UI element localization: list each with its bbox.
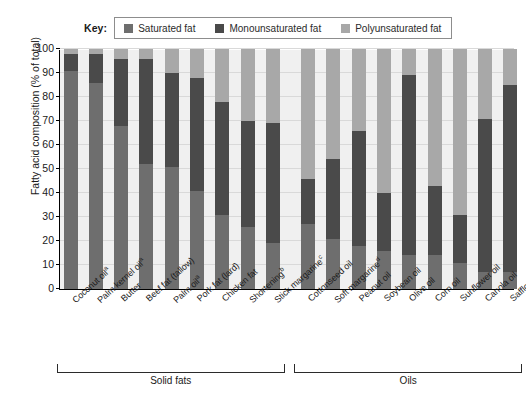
bar: [114, 49, 128, 289]
legend-label-monounsaturated: Monounsaturated fat: [229, 23, 321, 34]
bar-segment-monounsaturated-fat: [215, 102, 229, 215]
bar-segment-monounsaturated-fat: [301, 179, 315, 225]
bar-segment-monounsaturated-fat: [165, 73, 179, 167]
legend-swatch-monounsaturated: [215, 24, 224, 33]
bar: [326, 49, 340, 289]
y-tick-mark: [56, 120, 60, 121]
bar: [377, 49, 391, 289]
bar-segment-polyunsaturated-fat: [326, 49, 340, 159]
y-tick-label: 100: [24, 48, 54, 49]
bar-segment-monounsaturated-fat: [478, 119, 492, 273]
bar-segment-monounsaturated-fat: [352, 131, 366, 246]
bar-segment-polyunsaturated-fat: [301, 49, 315, 179]
y-tick-mark: [56, 192, 60, 193]
legend-entry-monounsaturated: Monounsaturated fat: [215, 23, 321, 34]
bar-segment-saturated-fat: [89, 83, 103, 289]
bar-segment-monounsaturated-fat: [139, 59, 153, 165]
bar: [190, 49, 204, 289]
bar: [266, 49, 280, 289]
bar: [241, 49, 255, 289]
legend-key-label: Key:: [84, 22, 107, 34]
y-tick-mark: [56, 240, 60, 241]
bar-segment-monounsaturated-fat: [377, 193, 391, 251]
bar-segment-polyunsaturated-fat: [453, 49, 467, 215]
y-tick-mark: [56, 288, 60, 289]
y-tick-mark: [56, 96, 60, 97]
legend-swatch-saturated: [124, 24, 133, 33]
bar-segment-polyunsaturated-fat: [503, 49, 517, 85]
bar-segment-polyunsaturated-fat: [377, 49, 391, 193]
bar-segment-saturated-fat: [64, 71, 78, 289]
bar-segment-monounsaturated-fat: [266, 123, 280, 243]
bar: [64, 49, 78, 289]
bar: [402, 49, 416, 289]
bar-segment-polyunsaturated-fat: [89, 49, 103, 54]
y-tick-label: 50: [24, 168, 54, 169]
bar: [215, 49, 229, 289]
y-tick-label: 70: [24, 120, 54, 121]
bar-segment-monounsaturated-fat: [402, 75, 416, 255]
bar-segment-polyunsaturated-fat: [266, 49, 280, 123]
bar-segment-polyunsaturated-fat: [428, 49, 442, 186]
bar-segment-monounsaturated-fat: [114, 59, 128, 126]
bar-segment-monounsaturated-fat: [241, 121, 255, 227]
bar: [139, 49, 153, 289]
bar-segment-polyunsaturated-fat: [352, 49, 366, 131]
y-tick-label: 60: [24, 144, 54, 145]
bar: [428, 49, 442, 289]
legend-entry-saturated: Saturated fat: [124, 23, 195, 34]
y-tick-label: 20: [24, 240, 54, 241]
y-tick-label: 40: [24, 192, 54, 193]
bar: [453, 49, 467, 289]
bar-segment-monounsaturated-fat: [503, 85, 517, 272]
bar: [503, 49, 517, 289]
chart-root: Key: Saturated fat Monounsaturated fat P…: [0, 0, 526, 398]
y-tick-mark: [56, 72, 60, 73]
y-tick-mark: [56, 264, 60, 265]
legend: Key: Saturated fat Monounsaturated fat P…: [84, 15, 452, 41]
bar-segment-saturated-fat: [139, 164, 153, 289]
y-tick-mark: [56, 216, 60, 217]
y-tick-label: 10: [24, 264, 54, 265]
bar-segment-monounsaturated-fat: [64, 54, 78, 71]
y-tick-label: 0: [24, 288, 54, 289]
bar-segment-polyunsaturated-fat: [64, 49, 78, 54]
legend-label-saturated: Saturated fat: [138, 23, 195, 34]
bar: [165, 49, 179, 289]
bar-segment-polyunsaturated-fat: [215, 49, 229, 102]
bar-segment-monounsaturated-fat: [89, 54, 103, 83]
group-bracket-oils: [294, 364, 522, 373]
group-bracket-solid-fats: [57, 364, 285, 373]
bar-segment-polyunsaturated-fat: [478, 49, 492, 119]
bar-segment-polyunsaturated-fat: [165, 49, 179, 73]
legend-swatch-polyunsaturated: [341, 24, 350, 33]
y-tick-label: 90: [24, 72, 54, 73]
bar-segment-monounsaturated-fat: [190, 78, 204, 191]
bar: [301, 49, 315, 289]
y-tick-label: 80: [24, 96, 54, 97]
bar-segment-monounsaturated-fat: [326, 159, 340, 238]
plot-area: 0102030405060708090100: [59, 50, 514, 290]
bar-segment-monounsaturated-fat: [428, 186, 442, 256]
y-tick-mark: [56, 168, 60, 169]
y-tick-mark: [56, 144, 60, 145]
bar-segment-polyunsaturated-fat: [190, 49, 204, 78]
bar-segment-saturated-fat: [114, 126, 128, 289]
group-bracket-label: Oils: [294, 375, 522, 386]
bar-segment-monounsaturated-fat: [453, 215, 467, 263]
y-tick-mark: [56, 48, 60, 49]
legend-label-polyunsaturated: Polyunsaturated fat: [355, 23, 441, 34]
bar-segment-polyunsaturated-fat: [241, 49, 255, 121]
y-tick-label: 30: [24, 216, 54, 217]
bar-segment-polyunsaturated-fat: [402, 49, 416, 75]
legend-entry-polyunsaturated: Polyunsaturated fat: [341, 23, 441, 34]
bar: [89, 49, 103, 289]
group-bracket-label: Solid fats: [57, 375, 285, 386]
bar-segment-polyunsaturated-fat: [114, 49, 128, 59]
bar: [478, 49, 492, 289]
bar-segment-polyunsaturated-fat: [139, 49, 153, 59]
legend-box: Saturated fat Monounsaturated fat Polyun…: [114, 17, 452, 39]
bar: [352, 49, 366, 289]
